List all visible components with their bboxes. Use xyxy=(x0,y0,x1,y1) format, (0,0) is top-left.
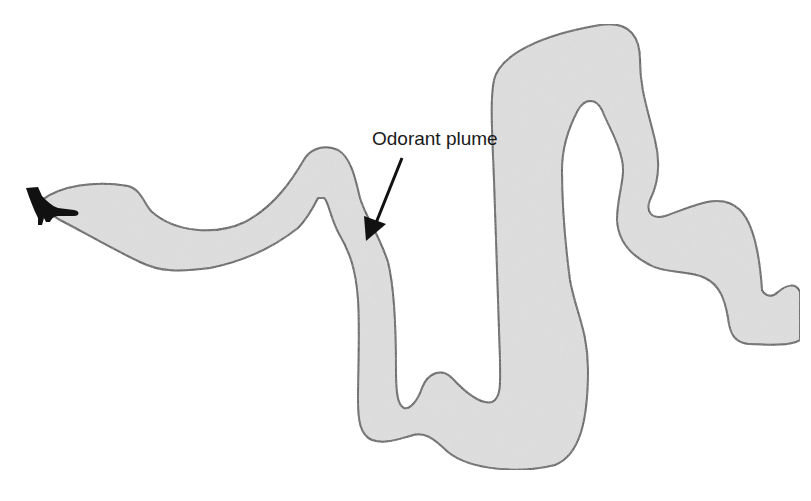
plume-shape xyxy=(42,24,800,469)
annotation-arrow xyxy=(364,158,402,241)
odorant-plume-diagram: Odorant plume xyxy=(0,0,811,501)
odorant-plume-label: Odorant plume xyxy=(372,128,498,150)
